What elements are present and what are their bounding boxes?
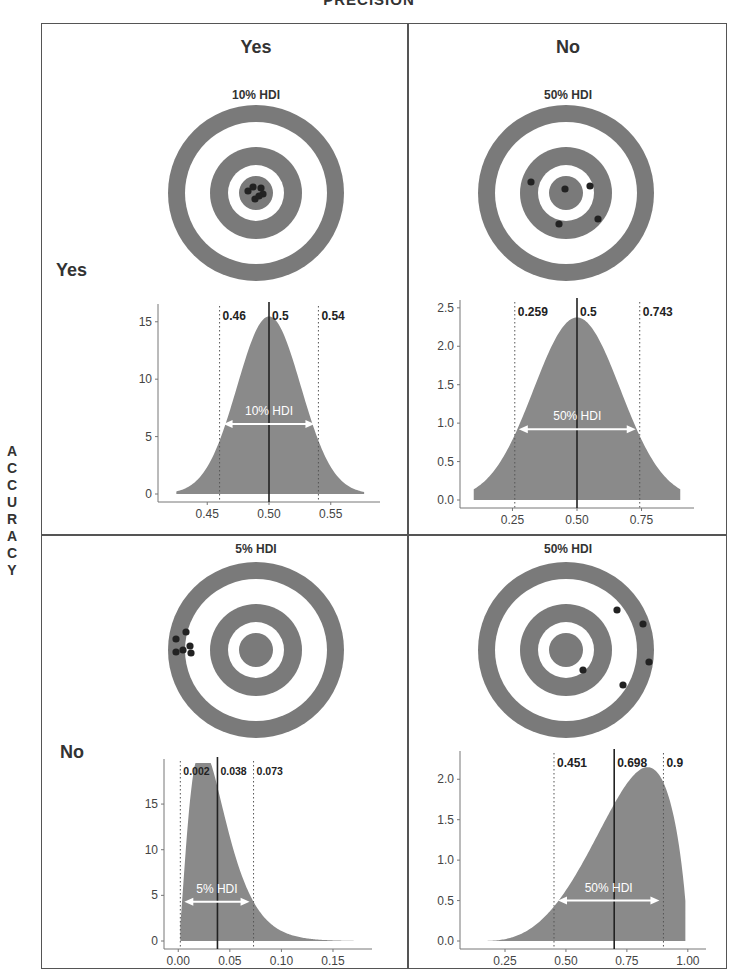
axis-letter: U — [4, 494, 20, 511]
grid-divider-vertical — [407, 23, 409, 969]
shot-marker — [613, 606, 620, 613]
row-header-no: No — [60, 742, 84, 763]
target-label: 5% HDI — [196, 542, 316, 556]
hdi-value-label: 0.5 — [580, 305, 597, 319]
shot-marker — [586, 182, 593, 189]
y-tick-label: 1.0 — [437, 853, 454, 867]
hdi-value-label: 0.54 — [321, 309, 345, 323]
density-chart: 0510150.450.500.550.460.50.5410% HDI — [130, 300, 380, 532]
target-label: 50% HDI — [508, 88, 628, 102]
target-label: 10% HDI — [196, 88, 316, 102]
shot-marker — [561, 185, 568, 192]
shot-marker — [255, 192, 262, 199]
x-tick-label: 0.50 — [565, 513, 589, 527]
target-label: 50% HDI — [508, 542, 628, 556]
hdi-arrow-label: 5% HDI — [196, 882, 237, 896]
x-tick-label: 0.10 — [270, 954, 294, 968]
y-tick-label: 2.0 — [437, 339, 454, 353]
axis-letter: C — [4, 460, 20, 477]
shot-marker — [249, 183, 256, 190]
x-tick-label: 0.75 — [615, 954, 639, 968]
x-tick-label: 0.55 — [319, 507, 343, 521]
x-tick-label: 0.25 — [501, 513, 525, 527]
hdi-arrow-label: 10% HDI — [245, 404, 293, 418]
shot-marker — [172, 635, 179, 642]
axis-letter: Y — [4, 562, 20, 579]
hdi-value-label: 0.5 — [272, 309, 289, 323]
shot-marker — [172, 648, 179, 655]
target-diagram — [166, 103, 346, 283]
hdi-value-label: 0.743 — [643, 305, 673, 319]
target-diagram — [476, 103, 656, 283]
row-header-yes: Yes — [56, 260, 87, 281]
x-tick-label: 0.50 — [554, 954, 578, 968]
hdi-arrow-label: 50% HDI — [553, 409, 601, 423]
axis-letter: R — [4, 511, 20, 528]
y-tick-label: 0.5 — [437, 455, 454, 469]
density-chart: 0.00.51.01.52.02.50.250.500.750.2590.50.… — [418, 298, 708, 532]
y-tick-label: 0.0 — [437, 934, 454, 948]
hdi-value-label: 0.073 — [257, 765, 283, 777]
axis-letter: C — [4, 545, 20, 562]
axis-letter: C — [4, 477, 20, 494]
y-tick-label: 10 — [145, 843, 159, 857]
x-tick-label: 0.05 — [218, 954, 242, 968]
hdi-value-label: 0.9 — [666, 756, 683, 770]
target-diagram — [166, 560, 346, 740]
target-diagram — [476, 560, 656, 740]
column-header-yes: Yes — [196, 37, 316, 58]
density-chart: 0.00.51.01.52.00.250.500.751.000.4510.69… — [418, 745, 718, 969]
x-tick-label: 0.00 — [167, 954, 191, 968]
y-tick-label: 1.5 — [437, 813, 454, 827]
shot-marker — [179, 646, 186, 653]
y-tick-label: 0.0 — [437, 493, 454, 507]
column-header-no: No — [508, 37, 628, 58]
row-axis-label-accuracy: ACCURACY — [4, 443, 20, 579]
hdi-value-label: 0.259 — [518, 305, 548, 319]
y-tick-label: 1.5 — [437, 378, 454, 392]
density-chart: 0510150.000.050.100.150.0020.0380.0735% … — [128, 755, 378, 970]
title-precision: PRECISION — [0, 0, 738, 8]
shot-marker — [619, 681, 626, 688]
shot-marker — [555, 220, 562, 227]
y-tick-label: 5 — [151, 888, 158, 902]
x-tick-label: 0.45 — [196, 507, 220, 521]
y-tick-label: 15 — [145, 797, 159, 811]
shot-marker — [187, 649, 194, 656]
shot-marker — [639, 620, 646, 627]
y-tick-label: 10 — [139, 372, 153, 386]
axis-letter: A — [4, 443, 20, 460]
y-tick-label: 0 — [151, 934, 158, 948]
x-tick-label: 0.15 — [321, 954, 345, 968]
shot-marker — [186, 642, 193, 649]
y-tick-label: 15 — [139, 315, 153, 329]
density-area — [481, 767, 686, 941]
shot-marker — [527, 178, 534, 185]
density-area — [180, 763, 353, 941]
y-tick-label: 1.0 — [437, 416, 454, 430]
hdi-arrow-label: 50% HDI — [585, 881, 633, 895]
hdi-value-label: 0.002 — [183, 765, 209, 777]
shot-marker — [579, 666, 586, 673]
shot-marker — [182, 628, 189, 635]
y-tick-label: 5 — [145, 430, 152, 444]
y-tick-label: 0.5 — [437, 894, 454, 908]
x-tick-label: 1.00 — [676, 954, 700, 968]
shot-marker — [645, 658, 652, 665]
x-tick-label: 0.75 — [630, 513, 654, 527]
hdi-value-label: 0.451 — [557, 756, 587, 770]
y-tick-label: 0 — [145, 487, 152, 501]
y-tick-label: 2.5 — [437, 301, 454, 315]
hdi-value-label: 0.038 — [220, 765, 246, 777]
x-tick-label: 0.25 — [493, 954, 517, 968]
axis-letter: A — [4, 528, 20, 545]
hdi-value-label: 0.698 — [617, 756, 647, 770]
x-tick-label: 0.50 — [257, 507, 281, 521]
hdi-value-label: 0.46 — [223, 309, 247, 323]
grid-divider-horizontal — [41, 534, 727, 536]
shot-marker — [594, 215, 601, 222]
y-tick-label: 2.0 — [437, 772, 454, 786]
